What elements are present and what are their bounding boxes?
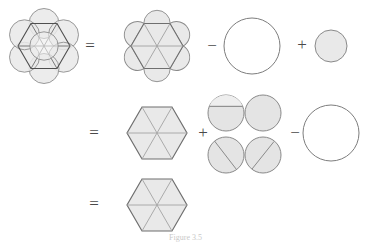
figure-caption: Figure 3.5 [0,234,371,242]
circle-diagonal-chord-slash [245,137,281,173]
row2-hexagon-with-diagonals [127,107,187,159]
row1-unfilled-large-circle [224,18,280,74]
grid-of-four-chord-circles [208,95,281,173]
row1-minus-sign: − [205,37,219,54]
geometric-figure [0,0,371,242]
row1-equals-sign: = [82,37,98,54]
row3-equals-sign: = [86,195,102,212]
rosette-figure [10,9,79,84]
row1-plus-sign: + [295,36,309,53]
row2-plus-sign: + [196,124,210,141]
figure-canvas: = − + = + − = Figure 3.5 [0,0,371,242]
row2-equals-sign: = [86,124,102,141]
circle-horizontal-chord [208,95,244,131]
row3-hexagon-with-diagonals [127,179,187,231]
rosette-central-circle [30,32,58,60]
hexagon-with-bumps [119,10,194,81]
row2-minus-sign: − [288,124,302,141]
circle-no-chord [245,95,281,131]
row1-filled-small-circle [315,30,347,62]
circle-diagonal-chord-backslash [208,137,244,173]
row2-unfilled-large-circle [303,105,359,161]
